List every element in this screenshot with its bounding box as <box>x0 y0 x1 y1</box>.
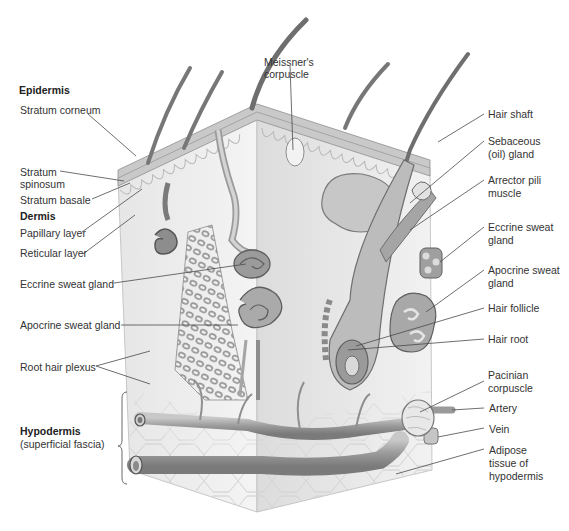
meissner-corpuscle <box>286 138 304 166</box>
label-root-hair-plexus: Root hair plexus <box>20 361 96 374</box>
label-eccrine-right-line2: gland <box>488 234 514 247</box>
label-eccrine-right-line1: Eccrine sweat <box>488 221 553 234</box>
label-papillary-layer: Papillary layer <box>20 227 86 240</box>
hypodermis-brace <box>118 392 127 484</box>
label-arrector-pili-line1: Arrector pili <box>488 174 541 187</box>
label-sebaceous-line2: (oil) gland <box>488 148 534 161</box>
label-reticular-layer: Reticular layer <box>20 247 87 260</box>
skin-diagram: Epidermis Stratum corneum Stratum spinos… <box>0 0 569 531</box>
label-adipose-line1: Adipose <box>489 444 527 457</box>
label-stratum-spinosum-line2: spinosum <box>20 178 65 191</box>
label-superficial-fascia: (superficial fascia) <box>20 438 105 451</box>
label-hair-shaft: Hair shaft <box>488 108 533 121</box>
label-stratum-spinosum-line1: Stratum <box>20 166 57 179</box>
label-apocrine-sweat-gland-left: Apocrine sweat gland <box>20 319 120 332</box>
label-eccrine-sweat-gland-left: Eccrine sweat gland <box>20 278 114 291</box>
label-artery: Artery <box>489 402 517 415</box>
label-meissner-line2: corpuscle <box>264 68 309 81</box>
label-apocrine-right-line1: Apocrine sweat <box>488 264 560 277</box>
label-apocrine-right-line2: gland <box>488 277 514 290</box>
label-arrector-pili-line2: muscle <box>488 187 521 200</box>
label-hair-follicle: Hair follicle <box>488 302 539 315</box>
label-meissner-line1: Meissner's <box>264 56 314 69</box>
label-dermis: Dermis <box>20 210 56 223</box>
label-pacinian-line2: corpuscle <box>488 382 533 395</box>
label-pacinian-line1: Pacinian <box>488 369 528 382</box>
label-adipose-line2: tissue of <box>489 457 528 470</box>
label-hypodermis: Hypodermis <box>20 425 81 438</box>
label-sebaceous-line1: Sebaceous <box>488 135 541 148</box>
label-adipose-line3: hypodermis <box>489 470 543 483</box>
label-stratum-basale: Stratum basale <box>20 194 91 207</box>
label-vein: Vein <box>489 423 509 436</box>
label-epidermis: Epidermis <box>19 84 70 97</box>
label-stratum-corneum: Stratum corneum <box>20 104 101 117</box>
label-hair-root: Hair root <box>488 333 528 346</box>
